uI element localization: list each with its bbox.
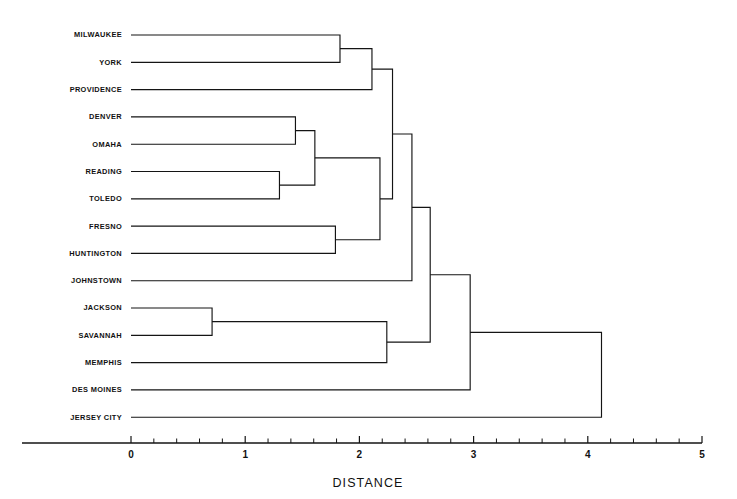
leaf-label: MILWAUKEE (74, 30, 122, 39)
leaf-label: PROVIDENCE (70, 85, 122, 94)
dendrogram-link (131, 275, 470, 390)
leaf-label: DENVER (89, 112, 122, 121)
leaf-label: TOLEDO (89, 194, 122, 203)
dendrogram-link (387, 207, 430, 342)
axis-tick-label: 5 (699, 449, 705, 460)
leaf-label: OMAHA (92, 140, 122, 149)
dendrogram-link (131, 35, 340, 62)
dendrogram-link (131, 134, 412, 281)
axis-tick-label: 1 (242, 449, 248, 460)
dendrogram-link (131, 172, 279, 199)
axis-tick-label: 0 (128, 449, 134, 460)
dendrogram-links (131, 35, 602, 417)
dendrogram-link (131, 226, 335, 253)
dendrogram-link (372, 69, 393, 199)
leaf-label: FRESNO (89, 222, 122, 231)
dendrogram-link (131, 322, 387, 363)
axis-tick-label: 3 (471, 449, 477, 460)
dendrogram-link (315, 158, 380, 240)
axis-title-distance: DISTANCE (332, 476, 403, 490)
dendrogram-plot-area: MILWAUKEEYORKPROVIDENCEDENVEROMAHAREADIN… (0, 0, 737, 499)
distance-axis: 012345 (22, 436, 705, 460)
leaf-label: JACKSON (83, 303, 122, 312)
dendrogram-link (131, 49, 372, 90)
leaf-label: HUNTINGTON (69, 249, 122, 258)
leaf-label: DES MOINES (72, 385, 122, 394)
dendrogram-link (131, 117, 295, 144)
leaf-label: READING (85, 167, 122, 176)
leaf-label: MEMPHIS (85, 358, 122, 367)
leaf-label: SAVANNAH (78, 331, 122, 340)
dendrogram-link (279, 131, 314, 186)
leaf-label: YORK (99, 58, 122, 67)
dendrogram-link (131, 332, 602, 417)
axis-tick-label: 4 (585, 449, 591, 460)
dendrogram-chart: MILWAUKEEYORKPROVIDENCEDENVEROMAHAREADIN… (0, 0, 737, 499)
dendrogram-link (131, 308, 212, 335)
leaf-label: JOHNSTOWN (71, 276, 122, 285)
leaf-labels: MILWAUKEEYORKPROVIDENCEDENVEROMAHAREADIN… (69, 30, 122, 421)
leaf-label: JERSEY CITY (70, 413, 122, 422)
axis-tick-label: 2 (357, 449, 363, 460)
